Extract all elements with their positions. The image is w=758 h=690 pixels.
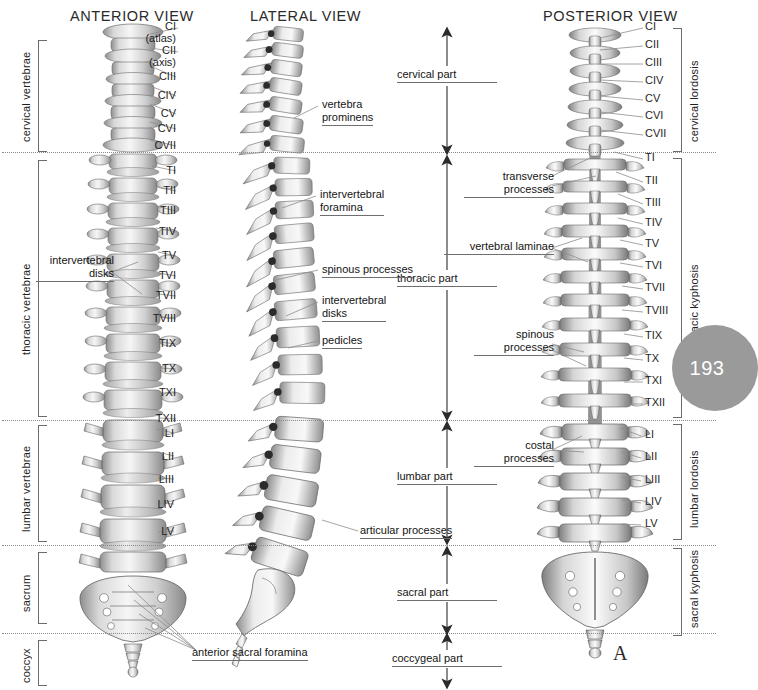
callout-vertebral-laminae: vertebral laminae	[444, 240, 554, 255]
anterior-label-ci: CI	[136, 20, 176, 32]
curvature-label-sacral-kyphosis: sacral kyphosis	[688, 556, 700, 628]
divider-cervico-thoracic	[2, 152, 716, 153]
posterior-label-tii: TII	[645, 174, 658, 186]
anterior-label-tiv: TIV	[136, 225, 176, 237]
region-label-cervical-vertebrae: cervical vertebrae	[20, 50, 32, 142]
anterior-label-ti: TI	[136, 164, 176, 176]
posterior-label-tvi: TVI	[645, 259, 662, 271]
callout-intervertebral-disks-lateral: intervertebraldisks	[322, 294, 386, 322]
posterior-view-artwork	[540, 22, 650, 662]
curvature-label-cervical-lordosis: cervical lordosis	[688, 38, 700, 142]
header-posterior-view: POSTERIOR VIEW	[543, 8, 678, 24]
anterior-label-tii: TII	[136, 184, 176, 196]
posterior-label-txi: TXI	[645, 374, 662, 386]
posterior-label-cv: CV	[645, 92, 660, 104]
posterior-label-lii: LII	[645, 450, 657, 462]
anterior-label-tx: TX	[136, 362, 176, 374]
posterior-label-ci: CI	[645, 20, 656, 32]
bracket-thoracic-vertebrae	[38, 160, 47, 417]
bracket-coccyx	[38, 640, 47, 686]
posterior-label-liv: LIV	[645, 495, 662, 507]
column-part-cervical: cervical part	[397, 68, 497, 83]
region-label-thoracic-vertebrae: thoracic vertebrae	[20, 225, 32, 355]
anterior-label-txii: TXII	[130, 412, 176, 424]
posterior-label-li: LI	[645, 428, 654, 440]
posterior-label-cvii: CVII	[645, 127, 666, 139]
anterior-label-tviii: TVIII	[130, 312, 176, 324]
callout-spinous-processes-lateral: spinous processes	[322, 263, 413, 278]
posterior-label-tvii: TVII	[645, 281, 665, 293]
posterior-label-tiv: TIV	[645, 216, 662, 228]
anterior-label-liii: LIII	[136, 473, 174, 485]
posterior-label-lv: LV	[645, 517, 658, 529]
posterior-label-ti: TI	[645, 151, 655, 163]
curvature-label-lumbar-lordosis: lumbar lordosis	[688, 436, 700, 528]
anterior-label-axis: (axis)	[126, 56, 176, 68]
anterior-label-txi: TXI	[136, 386, 176, 398]
anterior-label-tv: TV	[136, 249, 176, 261]
anterior-label-atlas: (atlas)	[126, 32, 176, 44]
bracket-lumbar-vertebrae	[38, 425, 47, 542]
anterior-label-li: LI	[136, 427, 174, 439]
anterior-label-lii: LII	[136, 450, 174, 462]
anterior-label-tix: TIX	[136, 337, 176, 349]
region-label-sacrum: sacrum	[20, 566, 32, 612]
bracket-cervical-lordosis	[673, 28, 682, 152]
divider-thoraco-lumbar	[2, 420, 716, 421]
anterior-label-cvi: CVI	[136, 122, 176, 134]
column-part-coccygeal: coccygeal part	[392, 652, 502, 667]
callout-transverse-processes: transverse processes	[464, 170, 554, 198]
posterior-label-cii: CII	[645, 38, 659, 50]
posterior-label-tx: TX	[645, 352, 659, 364]
anterior-label-liv: LIV	[136, 498, 174, 510]
column-part-sacral: sacral part	[397, 586, 497, 601]
anterior-label-cv: CV	[136, 107, 176, 119]
anterior-label-cii: CII	[136, 44, 176, 56]
divider-sacro-coccygeal	[2, 633, 716, 634]
posterior-label-tviii: TVIII	[645, 304, 668, 316]
anterior-label-tvii: TVII	[136, 289, 176, 301]
anterior-label-lv: LV	[136, 525, 174, 537]
anterior-label-civ: CIV	[136, 89, 176, 101]
header-lateral-view: LATERAL VIEW	[250, 8, 361, 24]
posterior-label-civ: CIV	[645, 74, 663, 86]
page-number-badge: 193	[672, 325, 758, 411]
anterior-label-cvii: CVII	[136, 139, 176, 151]
callout-pedicles: pedicles	[322, 334, 362, 349]
bracket-sacrum	[38, 552, 47, 624]
bracket-cervical-vertebrae	[38, 40, 47, 152]
callout-articular-processes: articular processes	[360, 524, 452, 539]
callout-vertebra-prominens: vertebraprominens	[322, 98, 373, 126]
callout-intervertebral-foramina: intervertebralforamina	[320, 188, 384, 216]
posterior-label-ciii: CIII	[645, 56, 662, 68]
posterior-label-cvi: CVI	[645, 109, 663, 121]
callout-intervertebral-disks-anterior: intervertebral disks	[36, 254, 114, 282]
column-part-lumbar: lumbar part	[397, 470, 497, 485]
region-label-coccyx: coccyx	[20, 645, 32, 683]
bracket-lumbar-lordosis	[673, 424, 682, 540]
callout-costal-processes: costal processes	[474, 439, 554, 467]
region-label-lumbar-vertebrae: lumbar vertebrae	[20, 436, 32, 532]
posterior-label-tix: TIX	[645, 329, 662, 341]
posterior-label-txii: TXII	[645, 396, 665, 408]
anterior-label-tvi: TVI	[136, 269, 176, 281]
anterior-label-tiii: TIII	[136, 204, 176, 216]
divider-lumbo-sacral	[2, 545, 716, 546]
posterior-label-liii: LIII	[645, 473, 660, 485]
anterior-label-ciii: CIII	[136, 70, 176, 82]
figure-label-a: A	[613, 642, 627, 665]
posterior-label-tiii: TIII	[645, 196, 661, 208]
bracket-sacral-kyphosis	[673, 548, 682, 636]
callout-anterior-sacral-foramina: anterior sacral foramina	[192, 646, 308, 661]
callout-spinous-processes-posterior: spinous processes	[474, 328, 554, 356]
posterior-label-tv: TV	[645, 237, 659, 249]
